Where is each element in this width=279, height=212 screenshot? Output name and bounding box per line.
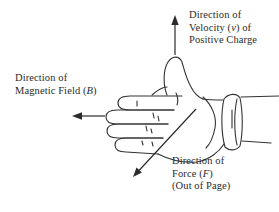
velocity-arrow-icon xyxy=(171,15,178,55)
force-label-line1: Direction of xyxy=(172,155,230,168)
force-label-line3: (Out of Page) xyxy=(172,180,230,193)
hand-middle-finger xyxy=(106,110,174,124)
force-label: Direction of Force (F) (Out of Page) xyxy=(172,155,230,193)
magnetic-field-label-line1: Direction of xyxy=(15,72,97,85)
hand-ring-finger xyxy=(107,124,168,138)
right-hand-icon xyxy=(106,57,279,162)
velocity-label-line3: Positive Charge xyxy=(189,34,257,47)
hand-thumb-crease xyxy=(176,93,178,105)
force-label-line2: Force (F) xyxy=(172,168,230,181)
velocity-label: Direction of Velocity (v) of Positive Ch… xyxy=(189,9,257,47)
magnetic-field-label-line2: Magnetic Field (B) xyxy=(15,85,97,98)
right-hand-rule-diagram: Direction of Velocity (v) of Positive Ch… xyxy=(0,0,279,212)
velocity-label-line1: Direction of xyxy=(189,9,257,22)
magnetic-field-label: Direction of Magnetic Field (B) xyxy=(15,72,97,97)
sleeve-lines xyxy=(241,96,279,143)
hand-thumb xyxy=(164,57,203,99)
hand-cuff xyxy=(222,94,242,150)
velocity-label-line2: Velocity (v) of xyxy=(189,22,257,35)
hand-index-finger xyxy=(118,96,182,110)
magnetic-field-arrow-icon xyxy=(72,112,105,119)
hand-palm-crease xyxy=(203,97,215,148)
